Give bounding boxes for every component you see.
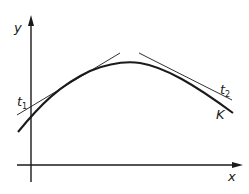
tangent-label-t2-sub: 2 [225, 90, 230, 99]
y-axis-label: y [14, 21, 22, 34]
tangent-label-t2: t2 [220, 83, 230, 99]
y-axis-arrow-icon [28, 15, 34, 26]
x-axis-arrow-icon [232, 162, 243, 168]
x-axis-label: x [228, 170, 236, 183]
curve-label-k: K [216, 108, 225, 121]
curve-k [18, 62, 233, 132]
tangent-label-t1-sub: 1 [22, 102, 27, 111]
tangent-label-t1: t1 [17, 95, 27, 111]
y-axis [28, 15, 34, 182]
diagram-canvas [0, 0, 249, 194]
x-axis [17, 162, 243, 168]
tangent-line-t2 [139, 53, 232, 100]
